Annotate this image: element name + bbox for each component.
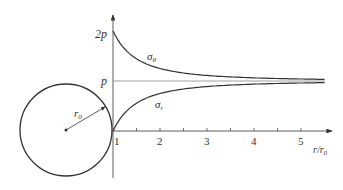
x-tick-5: 5: [298, 135, 304, 147]
x-tick-2: 2: [157, 135, 163, 147]
sigma-r-curve: [113, 83, 325, 131]
y-label-2p: 2p: [95, 27, 107, 41]
sigma-theta-label: σθ: [147, 50, 156, 64]
sigma-theta-curve: [113, 31, 325, 79]
radius-label: r0: [74, 107, 82, 121]
y-label-p: p: [100, 74, 107, 88]
radius-arrow: [66, 107, 105, 130]
x-axis-label: r/r0: [313, 144, 328, 157]
x-tick-3: 3: [204, 135, 210, 147]
x-tick-4: 4: [251, 135, 257, 147]
x-tick-1: 1: [114, 135, 120, 147]
x-ticks: [137, 128, 302, 131]
stress-diagram: r0 1 2 3 4 5 r/r0 2p p σθ σr: [0, 0, 343, 190]
sigma-r-label: σr: [155, 98, 163, 112]
